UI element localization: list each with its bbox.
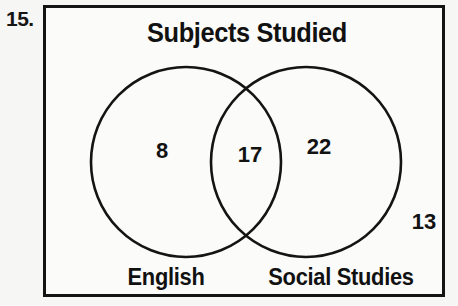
social-studies-only-count: 22 — [296, 136, 342, 158]
english-set-label: English — [100, 266, 233, 289]
figure-page: 15. Subjects Studied 8 17 22 13 English … — [0, 0, 458, 306]
intersection-count: 17 — [228, 144, 272, 166]
outside-count: 13 — [402, 211, 446, 233]
social-studies-set-label: Social Studies — [251, 266, 432, 289]
english-only-count: 8 — [142, 140, 182, 162]
venn-diagram-frame: Subjects Studied 8 17 22 13 English Soci… — [43, 5, 445, 297]
problem-number: 15. — [6, 8, 34, 29]
